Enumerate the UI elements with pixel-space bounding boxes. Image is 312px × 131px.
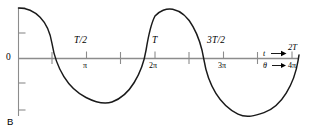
x-tick-label-t-one: T — [152, 36, 157, 46]
x-axis-end-label-4pi: 4π — [288, 62, 296, 70]
x-tick-label-3pi: 3π — [218, 62, 226, 70]
panel-letter-label: B — [7, 117, 13, 127]
x-axis-variable-t: t — [263, 50, 265, 58]
t-axis-arrow — [271, 51, 287, 56]
x-axis-variable-theta: θ — [263, 62, 267, 70]
theta-axis-arrow — [272, 63, 286, 68]
x-tick-label-2pi: 2π — [149, 62, 157, 70]
x-tick-label-t-half: T/2 — [74, 36, 87, 46]
x-tick-label-pi: π — [83, 62, 87, 70]
cosine-curve — [19, 8, 300, 116]
x-axis-end-label-2T: 2T — [288, 43, 297, 52]
figure-panel-b: 0 T/2 T 3T/2 π 2π 3π t 2T θ 4π B — [0, 0, 312, 131]
x-tick-label-t-three-halves: 3T/2 — [207, 36, 225, 46]
y-axis-zero-label: 0 — [6, 53, 11, 63]
